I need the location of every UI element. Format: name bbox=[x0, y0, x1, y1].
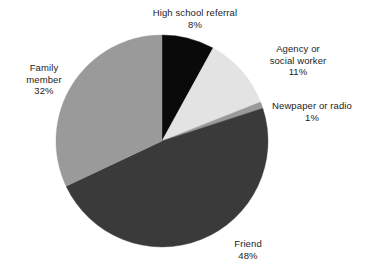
pie-label-value: 48% bbox=[213, 250, 283, 262]
pie-label-text: Newpaper or radio bbox=[256, 100, 368, 112]
pie-label-high-school-referral: High school referral 8% bbox=[139, 7, 251, 30]
pie-label-value: 32% bbox=[8, 85, 80, 97]
pie-slice-group bbox=[56, 35, 268, 247]
pie-label-text: Agency or bbox=[246, 43, 350, 55]
pie-chart-figure: High school referral 8% Agency or social… bbox=[0, 0, 369, 272]
pie-label-text: High school referral bbox=[139, 7, 251, 19]
pie-label-text: Friend bbox=[213, 238, 283, 250]
pie-label-agency-or-social-worker: Agency or social worker 11% bbox=[246, 43, 350, 78]
pie-label-value: 8% bbox=[139, 19, 251, 31]
pie-label-friend: Friend 48% bbox=[213, 238, 283, 261]
pie-label-text-2: social worker bbox=[246, 55, 350, 67]
pie-chart-canvas bbox=[0, 0, 369, 272]
pie-label-value: 1% bbox=[256, 112, 368, 124]
pie-label-value: 11% bbox=[246, 66, 350, 78]
pie-label-family-member: Family member 32% bbox=[8, 62, 80, 97]
pie-label-newpaper-or-radio: Newpaper or radio 1% bbox=[256, 100, 368, 123]
pie-label-text: Family bbox=[8, 62, 80, 74]
pie-label-text-2: member bbox=[8, 74, 80, 86]
